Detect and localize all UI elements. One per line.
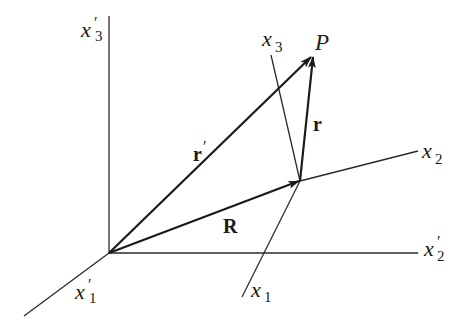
- svg-text:x: x: [250, 277, 261, 302]
- label-vector-R: R: [223, 215, 238, 237]
- svg-text:3: 3: [95, 28, 103, 44]
- vector-R: [109, 181, 299, 253]
- label-x2-prime: x ′ 2: [423, 233, 445, 264]
- svg-text:1: 1: [264, 289, 272, 305]
- svg-text:r: r: [193, 143, 202, 165]
- svg-text:x: x: [423, 236, 434, 261]
- axis-x3: [271, 55, 300, 181]
- axis-x2: [300, 151, 418, 181]
- svg-text:2: 2: [437, 248, 445, 264]
- vector-r: [300, 57, 313, 181]
- label-x3-prime: x ′ 3: [80, 14, 103, 44]
- svg-text:1: 1: [89, 290, 97, 306]
- label-x1-prime: x ′ 1: [74, 276, 97, 306]
- label-x2: x 2: [421, 138, 443, 167]
- label-point-P: P: [314, 30, 329, 55]
- svg-text:x: x: [421, 138, 432, 163]
- label-vector-r: r: [313, 113, 322, 135]
- vectors: [109, 57, 313, 253]
- svg-text:x: x: [261, 26, 272, 51]
- svg-text:x: x: [80, 17, 91, 42]
- label-x1: x 1: [250, 277, 272, 305]
- unprimed-frame: [242, 55, 418, 297]
- svg-text:3: 3: [275, 39, 283, 55]
- svg-text:2: 2: [435, 151, 443, 167]
- svg-text:x: x: [74, 279, 85, 304]
- axis-x1-prime: [24, 253, 109, 316]
- svg-text:′: ′: [203, 138, 207, 155]
- vector-r-prime: [109, 57, 311, 253]
- label-x3: x 3: [261, 26, 283, 55]
- coordinate-frames-diagram: x ′ 3 x ′ 2 x ′ 1 x 3 x 2 x 1 P r ′ r R: [0, 0, 469, 332]
